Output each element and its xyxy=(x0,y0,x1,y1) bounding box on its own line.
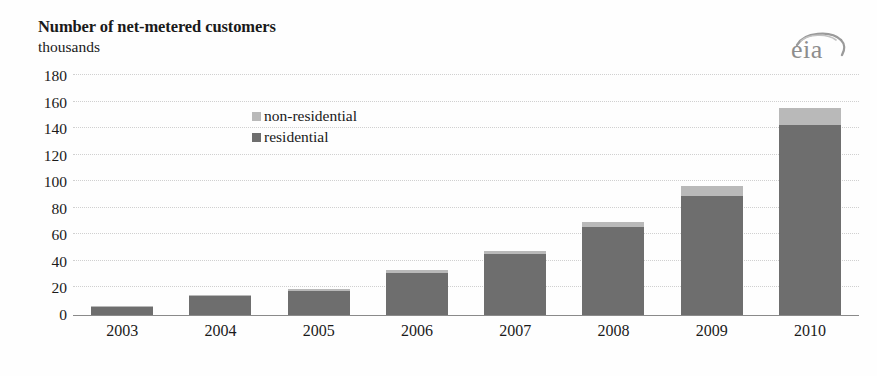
x-axis-tick-label-2007: 2007 xyxy=(470,323,560,339)
bar-group-2006[interactable] xyxy=(386,270,448,315)
y-axis-tick-label: 80 xyxy=(9,201,67,217)
y-axis-tick-label: 160 xyxy=(9,95,67,111)
legend-swatch-icon xyxy=(252,133,261,142)
bar-segment-residential[interactable] xyxy=(189,296,251,315)
eia-logo-text: eia xyxy=(791,37,823,63)
y-axis-tick-label: 0 xyxy=(9,307,67,323)
y-axis-tick-label: 60 xyxy=(9,228,67,244)
chart-units-label: thousands xyxy=(38,38,100,56)
plot-area xyxy=(73,76,859,315)
y-axis: 020406080100120140160180 xyxy=(5,76,67,315)
bar-segment-residential[interactable] xyxy=(386,273,448,315)
bar-segment-residential[interactable] xyxy=(288,291,350,315)
legend-swatch-icon xyxy=(252,112,261,121)
y-axis-tick-label: 100 xyxy=(9,174,67,190)
eia-logo: eia xyxy=(787,28,853,68)
bar-group-2010[interactable] xyxy=(779,108,841,315)
y-axis-tick-label: 180 xyxy=(9,68,67,84)
x-axis-tick-label-2005: 2005 xyxy=(274,323,364,339)
y-axis-tick-label: 120 xyxy=(9,148,67,164)
gridline xyxy=(73,127,859,129)
bar-segment-non-residential[interactable] xyxy=(681,186,743,195)
legend-item-non-residential[interactable]: non-residential xyxy=(252,105,357,126)
bar-group-2008[interactable] xyxy=(582,222,644,315)
bar-group-2007[interactable] xyxy=(484,251,546,315)
x-axis-tick-label-2009: 2009 xyxy=(667,323,757,339)
x-axis-tick-label-2003: 2003 xyxy=(77,323,167,339)
page-title: Number of net-metered customers xyxy=(38,17,276,37)
y-axis-tick-label: 40 xyxy=(9,254,67,270)
x-axis-tick-label-2010: 2010 xyxy=(765,323,855,339)
y-axis-tick-label: 20 xyxy=(9,281,67,297)
chart-legend: non-residentialresidential xyxy=(252,105,357,147)
gridline xyxy=(73,154,859,156)
chart-figure: Number of net-metered customers thousand… xyxy=(0,0,877,376)
legend-item-residential[interactable]: residential xyxy=(252,126,357,147)
gridline xyxy=(73,180,859,182)
bar-segment-residential[interactable] xyxy=(484,254,546,315)
y-axis-tick-label: 140 xyxy=(9,121,67,137)
bar-segment-residential[interactable] xyxy=(582,227,644,315)
x-axis-line xyxy=(73,315,859,316)
x-axis-tick-label-2008: 2008 xyxy=(568,323,658,339)
bar-group-2003[interactable] xyxy=(91,306,153,315)
legend-label: non-residential xyxy=(264,108,357,124)
bar-segment-residential[interactable] xyxy=(779,125,841,315)
x-axis-tick-label-2006: 2006 xyxy=(372,323,462,339)
bar-segment-residential[interactable] xyxy=(681,196,743,316)
bar-segment-residential[interactable] xyxy=(91,307,153,315)
bar-group-2009[interactable] xyxy=(681,186,743,315)
bar-group-2004[interactable] xyxy=(189,295,251,315)
gridline xyxy=(73,74,859,76)
bar-group-2005[interactable] xyxy=(288,289,350,315)
legend-label: residential xyxy=(264,129,329,145)
x-axis: 20032004200520062007200820092010 xyxy=(73,320,859,350)
x-axis-tick-label-2004: 2004 xyxy=(175,323,265,339)
gridline xyxy=(73,101,859,103)
bar-segment-non-residential[interactable] xyxy=(779,108,841,125)
